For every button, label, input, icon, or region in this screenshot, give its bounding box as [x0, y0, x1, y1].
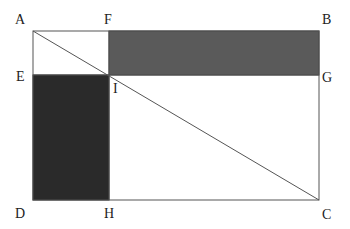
- geometry-diagram: A F B E I G D H C: [0, 0, 350, 229]
- label-a: A: [15, 12, 26, 27]
- label-i: I: [113, 81, 118, 96]
- shaded-rectangle-fbgi: [109, 31, 319, 75]
- label-e: E: [16, 69, 25, 84]
- label-g: G: [322, 70, 332, 85]
- label-f: F: [104, 12, 112, 27]
- label-d: D: [15, 206, 25, 221]
- label-b: B: [322, 12, 331, 27]
- label-c: C: [322, 207, 331, 222]
- shaded-rectangle-eihd: [33, 75, 109, 200]
- label-h: H: [104, 206, 114, 221]
